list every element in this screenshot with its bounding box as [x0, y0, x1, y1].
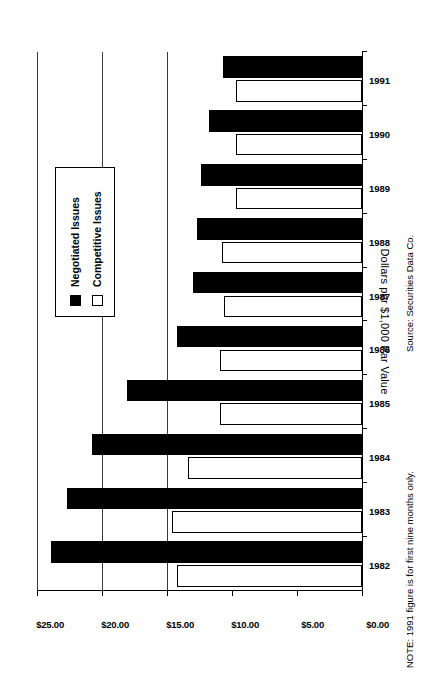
- category-axis-tick-mark: [362, 159, 367, 160]
- gridline: [37, 52, 38, 591]
- bar-competitive-1988: [222, 242, 362, 264]
- category-axis-tick-mark: [362, 213, 367, 214]
- bar-negotiated-1987: [193, 272, 362, 294]
- chart-legend: Negotiated Issues Competitive Issues: [55, 167, 115, 317]
- bar-competitive-1987: [224, 296, 362, 318]
- legend-item-competitive: Competitive Issues: [86, 178, 108, 306]
- value-axis-tick-mark: [362, 591, 363, 596]
- gridline: [167, 52, 168, 591]
- value-axis-tick-label: $25.00: [10, 619, 64, 630]
- legend-label-negotiated: Negotiated Issues: [69, 197, 81, 287]
- bar-negotiated-1989: [201, 164, 362, 186]
- category-axis-tick-mark: [362, 374, 367, 375]
- bar-negotiated-1990: [209, 110, 362, 132]
- bar-negotiated-1985: [127, 380, 362, 402]
- bar-competitive-1986: [220, 350, 362, 372]
- category-axis-tick-mark: [362, 321, 367, 322]
- category-axis-line: [362, 52, 363, 591]
- bar-negotiated-1991: [223, 56, 362, 78]
- value-axis-tick-mark: [232, 591, 233, 596]
- legend-item-negotiated: Negotiated Issues: [64, 178, 86, 306]
- bar-competitive-1985: [220, 403, 362, 425]
- legend-swatch-hollow-square-icon: [92, 295, 103, 306]
- bar-competitive-1984: [188, 457, 362, 479]
- category-axis-tick-mark: [362, 51, 367, 52]
- bar-competitive-1990: [236, 134, 362, 156]
- bar-negotiated-1986: [177, 326, 362, 348]
- bar-negotiated-1982: [51, 541, 362, 563]
- value-axis-tick-mark: [167, 591, 168, 596]
- legend-label-competitive: Competitive Issues: [91, 191, 103, 287]
- value-axis-tick-label: $15.00: [140, 619, 194, 630]
- value-axis-tick-label: $5.00: [270, 619, 324, 630]
- category-axis-tick-mark: [362, 428, 367, 429]
- value-axis-line: [37, 590, 362, 591]
- source-note: Source: Securities Data Co.: [404, 235, 415, 352]
- bar-negotiated-1984: [92, 434, 362, 456]
- chart-page: $25.00$20.00$15.00$10.00$5.00$0.00 19821…: [0, 0, 424, 678]
- bar-competitive-1989: [236, 188, 362, 210]
- legend-swatch-filled-square-icon: [70, 295, 81, 306]
- rotated-chart-container: $25.00$20.00$15.00$10.00$5.00$0.00 19821…: [27, 27, 397, 647]
- bar-negotiated-1983: [67, 488, 362, 510]
- value-axis-tick-label: $0.00: [335, 619, 389, 630]
- gridline: [102, 52, 103, 591]
- value-axis-tick-mark: [297, 591, 298, 596]
- bar-competitive-1983: [172, 511, 362, 533]
- value-axis-tick-label: $20.00: [75, 619, 129, 630]
- bar-competitive-1991: [236, 80, 362, 102]
- value-axis-tick-mark: [102, 591, 103, 596]
- category-axis-tick-mark: [362, 536, 367, 537]
- footnote-note: NOTE: 1991 figure is for first nine mont…: [404, 471, 415, 668]
- value-axis-tick-mark: [37, 591, 38, 596]
- category-axis-tick-mark: [362, 267, 367, 268]
- value-axis-tick-label: $10.00: [205, 619, 259, 630]
- category-axis-tick-mark: [362, 482, 367, 483]
- bar-negotiated-1988: [197, 218, 362, 240]
- value-axis-title: Dollars per $1,000 Par Value: [379, 52, 391, 591]
- bar-competitive-1982: [177, 565, 362, 587]
- category-axis-tick-mark: [362, 105, 367, 106]
